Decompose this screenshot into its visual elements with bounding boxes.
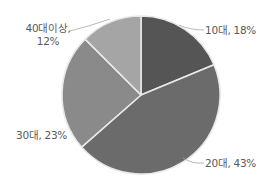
label-40s-plus-line2: 12% [24,35,72,48]
label-10s: 10대, 18% [205,24,256,37]
label-20s: 20대, 43% [205,157,256,170]
label-40s-plus: 40대이상, 12% [24,22,72,48]
label-30s: 30대, 23% [16,129,67,142]
pie-slices [62,16,220,174]
label-40s-plus-line1: 40대이상, [24,22,72,35]
